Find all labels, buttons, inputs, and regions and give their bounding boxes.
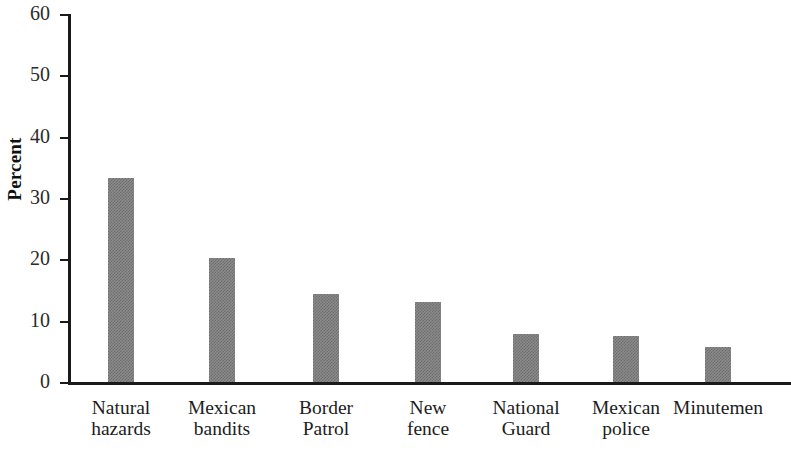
y-axis-title: Percent: [4, 124, 26, 214]
y-tick-label: 30: [30, 186, 50, 209]
y-tick-mark: 30: [60, 198, 69, 200]
y-tick-label: 50: [30, 63, 50, 86]
bar: [209, 258, 235, 382]
plot-area: 0102030405060 Natural hazardsMexican ban…: [68, 14, 791, 382]
y-tick-mark: 20: [60, 259, 69, 261]
bar-chart-figure: Percent 0102030405060 Natural hazardsMex…: [0, 0, 791, 452]
y-tick-mark: 60: [60, 14, 69, 16]
bar: [415, 302, 441, 382]
x-axis-line: [68, 382, 791, 385]
bar: [513, 334, 539, 382]
y-tick-label: 0: [40, 370, 50, 393]
bar: [613, 336, 639, 382]
y-tick-label: 20: [30, 247, 50, 270]
y-tick-label: 10: [30, 309, 50, 332]
y-tick-label: 40: [30, 125, 50, 148]
x-axis-label: Minutemen: [658, 397, 778, 418]
bar: [313, 294, 339, 382]
y-tick-label: 60: [30, 2, 50, 25]
y-tick-mark: 10: [60, 321, 69, 323]
bar: [705, 347, 731, 382]
y-tick-mark: 50: [60, 75, 69, 77]
x-axis-label: Mexican bandits: [162, 397, 282, 439]
bar: [108, 178, 134, 382]
y-tick-mark: 40: [60, 137, 69, 139]
y-tick-mark: 0: [60, 382, 69, 384]
